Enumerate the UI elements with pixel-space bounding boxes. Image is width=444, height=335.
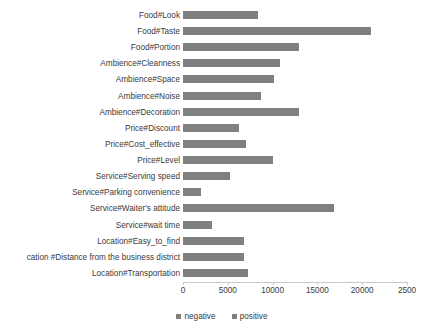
chart-row: Service#Parking convenience [183, 185, 407, 201]
legend-label-positive: positive [240, 312, 268, 321]
bar-chart: Food#LookFood#TasteFood#PortionAmbience#… [0, 0, 444, 335]
category-label: Service#Parking convenience [72, 185, 180, 201]
category-label: Price#Cost_effective [105, 137, 180, 153]
chart-row: Food#Taste [183, 24, 407, 40]
axis-tick-label: 15000 [306, 286, 329, 295]
axis-tick-label: 2500 [398, 286, 416, 295]
category-label: Ambience#Noise [118, 89, 180, 105]
category-label: Price#Level [137, 153, 180, 169]
bar [183, 269, 248, 277]
category-label: Food#Portion [131, 40, 180, 56]
chart-row: Ambience#Space [183, 72, 407, 88]
axis-tick-label: 5000 [219, 286, 237, 295]
legend-label-negative: negative [184, 312, 215, 321]
bar [183, 221, 212, 229]
chart-row: cation #Distance from the business distr… [183, 250, 407, 266]
category-label: Price#Discount [125, 121, 180, 137]
legend-swatch-negative [176, 314, 181, 319]
legend-item-positive: positive [232, 312, 268, 321]
category-label: cation #Distance from the business distr… [27, 250, 180, 266]
bar [183, 92, 261, 100]
chart-row: Service#Serving speed [183, 169, 407, 185]
axis-tick-label: 0 [181, 286, 186, 295]
bar [183, 108, 299, 116]
category-label: Food#Taste [137, 24, 180, 40]
category-label: Service#wait time [116, 218, 180, 234]
axis-tick [362, 282, 363, 285]
bar [183, 59, 280, 67]
axis-tick-label: 20000 [351, 286, 374, 295]
chart-legend: negative positive [0, 312, 444, 321]
chart-row: Location#Transportation [183, 266, 407, 282]
category-label: Ambience#Decoration [99, 105, 180, 121]
axis-tick-label: 10000 [261, 286, 284, 295]
chart-row: Ambience#Decoration [183, 105, 407, 121]
x-axis-line [183, 282, 407, 283]
category-label: Location#Transportation [92, 266, 180, 282]
bar [183, 237, 244, 245]
category-label: Location#Easy_to_find [97, 234, 180, 250]
category-label: Ambience#Cleanness [100, 56, 180, 72]
bar [183, 124, 239, 132]
axis-tick [183, 282, 184, 285]
category-label: Service#Serving speed [96, 169, 180, 185]
axis-tick [317, 282, 318, 285]
chart-row: Price#Discount [183, 121, 407, 137]
axis-tick [228, 282, 229, 285]
legend-item-negative: negative [176, 312, 215, 321]
chart-row: Service#wait time [183, 218, 407, 234]
bar [183, 140, 246, 148]
axis-tick [273, 282, 274, 285]
bar [183, 188, 201, 196]
axis-tick [407, 282, 408, 285]
bar [183, 172, 230, 180]
bar [183, 11, 258, 19]
chart-row: Location#Easy_to_find [183, 234, 407, 250]
bar [183, 204, 334, 212]
chart-row: Service#Waiter's attitude [183, 201, 407, 217]
bar [183, 156, 273, 164]
bar [183, 253, 244, 261]
plot-area: Food#LookFood#TasteFood#PortionAmbience#… [183, 8, 407, 282]
chart-row: Ambience#Cleanness [183, 56, 407, 72]
bar [183, 75, 274, 83]
bar [183, 43, 299, 51]
category-label: Food#Look [139, 8, 180, 24]
bar [183, 27, 371, 35]
chart-row: Price#Level [183, 153, 407, 169]
chart-row: Price#Cost_effective [183, 137, 407, 153]
chart-row: Ambience#Noise [183, 89, 407, 105]
legend-swatch-positive [232, 314, 237, 319]
chart-row: Food#Look [183, 8, 407, 24]
chart-row: Food#Portion [183, 40, 407, 56]
category-label: Ambience#Space [116, 72, 180, 88]
category-label: Service#Waiter's attitude [90, 201, 180, 217]
